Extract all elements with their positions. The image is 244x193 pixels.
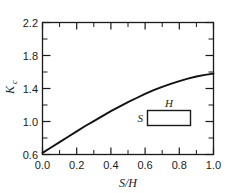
chart-figure: 0.6 1.0 1.4 1.8 2.2 0.0 0.2 0.4 0.6 0.8 … bbox=[0, 0, 244, 193]
y-axis-title: K c bbox=[3, 80, 19, 95]
chart-canvas: 0.6 1.0 1.4 1.8 2.2 0.0 0.2 0.4 0.6 0.8 … bbox=[0, 0, 244, 193]
y-tick-label-1: 1.0 bbox=[23, 116, 38, 128]
y-axis-title-base: K bbox=[3, 85, 17, 95]
y-axis-tick-labels: 0.6 1.0 1.4 1.8 2.2 bbox=[23, 17, 38, 161]
inset-rectangle bbox=[148, 111, 191, 126]
y-axis-major-ticks-left bbox=[43, 23, 51, 155]
x-axis-title: S/H bbox=[119, 176, 138, 190]
plot-frame bbox=[43, 23, 214, 155]
x-axis-tick-labels: 0.0 0.2 0.4 0.6 0.8 1.0 bbox=[35, 159, 221, 171]
inset-label-s: S bbox=[138, 112, 144, 124]
y-axis-title-subscript: c bbox=[10, 80, 19, 84]
inset-label-h: H bbox=[164, 97, 174, 109]
x-tick-label-4: 0.8 bbox=[172, 159, 187, 171]
x-tick-label-2: 0.4 bbox=[103, 159, 118, 171]
x-tick-label-5: 1.0 bbox=[206, 159, 221, 171]
y-axis-major-ticks-right bbox=[206, 23, 214, 155]
x-tick-label-3: 0.6 bbox=[137, 159, 152, 171]
y-tick-label-4: 2.2 bbox=[23, 17, 38, 29]
x-tick-label-1: 0.2 bbox=[69, 159, 84, 171]
x-tick-label-0: 0.0 bbox=[35, 159, 50, 171]
y-tick-label-2: 1.4 bbox=[23, 83, 38, 95]
x-axis-minor-ticks-bottom bbox=[60, 150, 197, 155]
y-tick-label-3: 1.8 bbox=[23, 50, 38, 62]
x-axis-minor-ticks-top bbox=[60, 23, 197, 28]
cross-section-inset: H S bbox=[138, 97, 191, 126]
